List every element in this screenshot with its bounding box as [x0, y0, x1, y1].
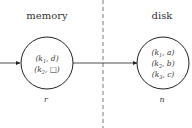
- node-n-entry-2: (k2, b): [151, 59, 174, 69]
- disk-label: disk: [152, 10, 174, 21]
- memory-label: memory: [26, 10, 68, 21]
- node-r-label: r: [44, 95, 49, 104]
- node-r-entry-1: (k1, d): [35, 54, 58, 64]
- memory-disk-diagram: memory disk (k1, d) (k2, □) r (k1, a) (k…: [0, 0, 192, 128]
- node-n-label: n: [159, 95, 164, 104]
- node-n-entry-1: (k1, a): [152, 48, 175, 58]
- node-n-entry-3: (k3, c): [152, 70, 175, 80]
- node-r-entry-2: (k2, □): [34, 65, 60, 75]
- node-r-circle: [21, 37, 73, 89]
